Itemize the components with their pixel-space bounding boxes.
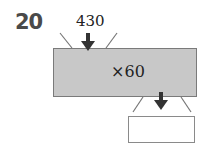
problem-number: 20 <box>15 10 42 34</box>
answer-box[interactable] <box>128 116 195 143</box>
input-value: 430 <box>76 12 105 30</box>
operation-box: ×60 <box>53 48 197 97</box>
function-machine-diagram: 20 430 ×60 <box>0 0 211 154</box>
operation-label: ×60 <box>54 62 196 81</box>
